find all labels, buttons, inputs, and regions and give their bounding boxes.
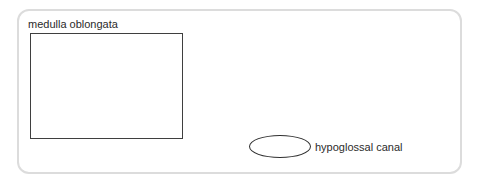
medulla-oblongata-label: medulla oblongata (28, 18, 118, 30)
hypoglossal-canal-label: hypoglossal canal (315, 141, 402, 153)
medulla-oblongata-box (30, 33, 183, 139)
hypoglossal-canal-ellipse (249, 135, 311, 158)
